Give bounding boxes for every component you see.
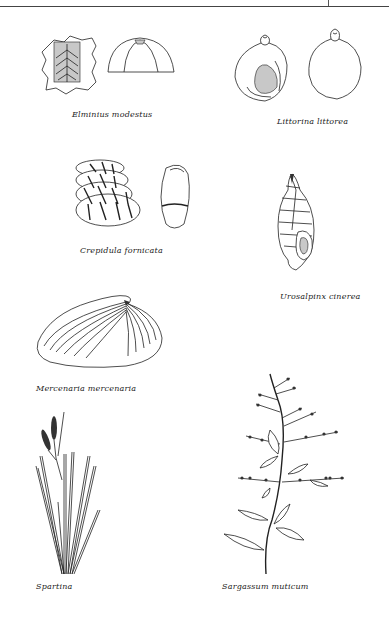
- figure-elminius-modestus: Elminius modestus: [40, 30, 190, 130]
- caption-littorina-littorea: Littorina littorea: [277, 117, 348, 126]
- caption-spartina: Spartina: [36, 582, 73, 591]
- caption-mercenaria-mercenaria: Mercenaria mercenaria: [36, 384, 136, 393]
- periwinkle-illustration-icon: [225, 25, 375, 105]
- figure-crepidula-fornicata: Crepidula fornicata: [70, 158, 220, 263]
- figure-littorina-littorea: Littorina littorea: [225, 25, 375, 135]
- cordgrass-illustration-icon: [20, 410, 130, 580]
- barnacle-illustration-icon: [40, 30, 190, 100]
- figure-mercenaria-mercenaria: Mercenaria mercenaria: [30, 290, 200, 400]
- caption-crepidula-fornicata: Crepidula fornicata: [80, 246, 163, 255]
- oyster-drill-illustration-icon: [270, 170, 380, 280]
- figure-sargassum-muticum: Sargassum muticum: [200, 370, 380, 610]
- figure-urosalpinx-cinerea: Urosalpinx cinerea: [270, 170, 380, 310]
- figure-spartina: Spartina: [20, 410, 130, 610]
- clam-illustration-icon: [30, 290, 200, 370]
- caption-urosalpinx-cinerea: Urosalpinx cinerea: [280, 292, 361, 301]
- header-tick: [328, 0, 329, 6]
- caption-sargassum-muticum: Sargassum muticum: [222, 582, 309, 591]
- slipper-limpet-illustration-icon: [70, 158, 220, 238]
- header-rule: [0, 6, 389, 7]
- caption-elminius-modestus: Elminius modestus: [72, 110, 152, 119]
- seaweed-illustration-icon: [200, 370, 380, 580]
